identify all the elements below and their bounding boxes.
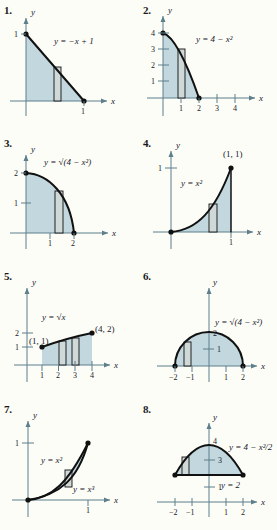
x-tick-label: 2 [241,373,245,382]
endpoint-dot [228,165,233,170]
y-tick-label: 1 [158,164,162,173]
x-tick-label: 2 [71,239,75,248]
figure-panel-2: 2. y = 4 − x² x y 1 2 3 4 1 [139,0,277,133]
point-label: (1, 1) [223,149,243,159]
function-label: y = √x [41,312,66,322]
y-axis-label: y [31,277,36,287]
x-axis-arrow [104,363,110,368]
y-tick-label: 1 [151,77,155,86]
figure-6-plot: y = √(4 − x²) x y −2 −1 1 2 1 2 [139,266,277,399]
x-axis-label: x [258,93,263,103]
x-axis-arrow [251,364,257,369]
x-axis-arrow [104,498,110,503]
function-label: y = √(4 − x²) [43,157,91,167]
function-label: y = √(4 − x²) [214,317,262,327]
figure-panel-3: 3. y = √(4 − x²) x y 1 2 1 2 [0,133,139,266]
y-axis-label: y [212,277,217,287]
x-tick-label: 1 [86,506,90,515]
point-label: (1, 1) [29,336,49,346]
y-axis-arrow [26,421,31,427]
y-axis-arrow [24,155,29,161]
representative-rectangle [184,342,191,366]
y-axis-label: y [30,144,35,154]
figure-2-plot: y = 4 − x² x y 1 2 3 4 1 2 3 4 [139,0,277,133]
y-tick-label: 2 [15,329,19,338]
y-tick-label: 2 [213,329,217,338]
x-tick-label: 1 [179,104,183,113]
y-axis-label: y [212,412,217,422]
x-tick-label: 2 [56,371,60,380]
endpoint-dot [240,472,245,477]
y-axis-arrow [207,288,212,294]
y-axis-label: y [30,7,35,17]
representative-rectangle [55,191,63,233]
function-label-upper: y = x² [40,455,63,465]
x-axis-label: x [113,495,118,505]
x-axis-arrow [251,500,257,505]
x-axis-label: x [260,361,265,371]
figure-4-plot: y = x² (1, 1) x y 1 1 [139,133,277,266]
x-tick-label: 4 [90,371,94,380]
y-tick-label: 4 [213,437,217,446]
endpoint-dot [25,497,30,502]
y-axis-label: y [175,140,180,150]
x-tick-label: 1 [224,508,228,517]
function-label: y = x² [180,178,203,188]
x-axis-label: x [110,96,115,106]
x-tick-label: 1 [224,373,228,382]
y-axis-arrow [161,16,166,22]
x-tick-label: 2 [197,104,201,113]
x-axis-arrow [102,231,108,236]
y-tick-label: 1 [15,343,19,352]
y-axis-arrow [169,151,174,157]
function-label-upper: y = 4 − x²/2 [228,442,273,452]
x-tick-label: 3 [73,371,77,380]
y-tick-label: 3 [151,45,155,54]
x-tick-label: 1 [229,238,233,247]
y-tick-label: 1 [14,199,18,208]
y-axis-arrow [24,18,29,24]
endpoint-dot [172,472,177,477]
y-tick-label: 2 [151,61,155,70]
x-tick-label: 4 [233,104,237,113]
y-tick-label: 1 [217,345,221,354]
x-tick-label: 1 [48,239,52,248]
function-label-lower: y = 2 [220,480,241,490]
figure-7-plot: y = x² y = x³ x y 1 1 [0,399,139,530]
function-label: y = 4 − x² [195,34,233,44]
y-axis-arrow [25,288,30,294]
x-axis-label: x [260,497,265,507]
figure-panel-4: 4. y = x² (1, 1) x y 1 1 [139,133,277,266]
x-axis-label: x [111,228,116,238]
shaded-region [42,333,92,365]
y-tick-label: 4 [151,29,155,38]
figure-panel-5: 5. y = √x (1, 1) (4, 2) x y 1 2 3 [0,266,139,399]
x-tick-label: 3 [215,104,219,113]
x-axis-arrow [101,99,107,104]
x-tick-label: −1 [186,373,195,382]
figure-8-plot: y = 4 − x²/2 y = 2 x y −2 −1 1 2 1 3 4 [139,399,277,530]
endpoint-dot [85,440,90,445]
x-tick-label: 1 [81,107,85,116]
function-label: y = −x + 1 [53,36,94,46]
x-tick-label: −2 [169,373,178,382]
x-axis-arrow [249,96,255,101]
y-axis-arrow [207,423,212,429]
x-tick-label: 2 [241,508,245,517]
figure-5-plot: y = √x (1, 1) (4, 2) x y 1 2 3 4 1 2 [0,266,139,399]
point-label: (4, 2) [95,324,115,334]
figure-3-plot: y = √(4 − x²) x y 1 2 1 2 [0,133,139,266]
figure-1-plot: y = −x + 1 x y 1 1 [0,0,139,133]
y-tick-label: 1 [14,30,18,39]
figure-grid: 1. y = −x + 1 x y 1 1 [0,0,277,530]
y-axis-label: y [32,410,37,420]
y-tick-label: 1 [15,439,19,448]
representative-rectangle [72,338,79,365]
endpoint-dot [168,229,173,234]
function-label-lower: y = x³ [72,484,95,494]
x-axis-label: x [113,360,118,370]
y-tick-label: 2 [14,169,18,178]
figure-panel-1: 1. y = −x + 1 x y 1 1 [0,0,139,133]
x-axis-arrow [247,230,253,235]
endpoint-dot [89,330,94,335]
